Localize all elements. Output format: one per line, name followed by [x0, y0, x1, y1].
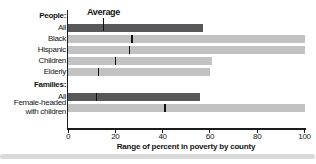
x-tick-label: 60 — [198, 132, 222, 141]
row-label: Hispanic — [38, 46, 66, 55]
bar — [68, 57, 212, 65]
x-axis-line — [67, 128, 307, 130]
row-label: Female-headedwith children — [14, 99, 66, 116]
x-tick-label: 40 — [151, 132, 175, 141]
row-label: Black — [48, 35, 66, 44]
bar — [68, 35, 305, 43]
x-tick-label: 20 — [103, 132, 127, 141]
row-label: All — [58, 24, 66, 33]
average-tick — [96, 93, 98, 101]
average-tick — [129, 46, 131, 54]
bottom-divider — [0, 154, 315, 159]
x-tick-label: 80 — [245, 132, 269, 141]
bar — [68, 104, 305, 112]
average-tick — [164, 104, 166, 112]
group-label: People: — [39, 11, 66, 20]
bar — [68, 24, 203, 32]
x-tick-label: 0 — [56, 132, 80, 141]
x-axis-title: Range of percent in poverty by county — [76, 142, 296, 151]
bar — [68, 46, 305, 54]
figure: Average Range of percent in poverty by c… — [0, 0, 315, 164]
average-callout-tick — [103, 18, 105, 31]
group-label: Families: — [34, 80, 66, 89]
average-label: Average — [71, 7, 135, 17]
row-label: Children — [39, 57, 66, 66]
x-tick-label: 100 — [293, 132, 316, 141]
average-tick — [115, 57, 117, 65]
row-label: Elderly — [44, 68, 66, 77]
bar — [68, 68, 210, 76]
bar — [68, 93, 200, 101]
average-tick — [98, 68, 100, 76]
average-tick — [131, 35, 133, 43]
